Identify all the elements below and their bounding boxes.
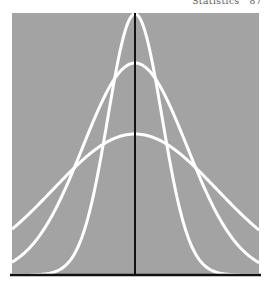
normal-curves-chart	[0, 0, 266, 283]
